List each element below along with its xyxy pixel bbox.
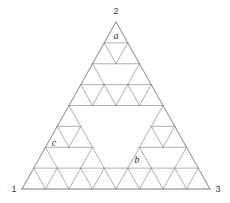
triangle-edge [93, 64, 105, 85]
triangle-edge [116, 43, 128, 64]
triangle-edge [104, 168, 116, 189]
triangle-edge [46, 168, 58, 189]
triangle-edge [151, 168, 163, 189]
triangle-edge [81, 85, 93, 106]
triangle-edge [93, 147, 105, 168]
triangle-edge [93, 85, 105, 106]
triangle-edge [57, 126, 69, 147]
triangle-edge [187, 168, 199, 189]
triangle-line-group [22, 22, 210, 189]
triangle-edge [81, 126, 93, 147]
triangle-edge [175, 168, 187, 189]
triangle-edge [151, 126, 163, 147]
triangle-edge [175, 147, 187, 168]
vertex-2: 2 [113, 6, 118, 16]
sierpinski-svg: 123 abc [0, 0, 230, 203]
triangle-edge [46, 147, 58, 168]
triangle-edge [116, 85, 128, 106]
triangle-edge [140, 126, 152, 147]
cell-b: b [135, 154, 140, 165]
cell-label-group: abc [52, 30, 140, 165]
triangle-edge [151, 106, 163, 127]
triangle-edge [81, 147, 93, 168]
triangle-edge [140, 85, 152, 106]
cell-c: c [52, 137, 57, 148]
triangle-edge [57, 168, 69, 189]
triangle-edge [140, 168, 152, 189]
triangle-edge [128, 64, 140, 85]
triangle-edge [69, 126, 81, 147]
triangle-edge [34, 168, 46, 189]
cell-a: a [114, 30, 119, 41]
triangle-edge [163, 168, 175, 189]
triangle-edge [128, 85, 140, 106]
vertex-3: 3 [215, 184, 220, 194]
triangle-edge [81, 168, 93, 189]
triangle-edge [93, 168, 105, 189]
triangle-edge [163, 126, 175, 147]
sierpinski-figure: 123 abc [0, 0, 230, 203]
triangle-edge [116, 168, 128, 189]
triangle-edge [69, 106, 81, 127]
triangle-edge [104, 85, 116, 106]
triangle-edge [140, 147, 152, 168]
triangle-edge [69, 168, 81, 189]
triangle-edge [128, 168, 140, 189]
vertex-1: 1 [11, 184, 16, 194]
triangle-edge [104, 43, 116, 64]
